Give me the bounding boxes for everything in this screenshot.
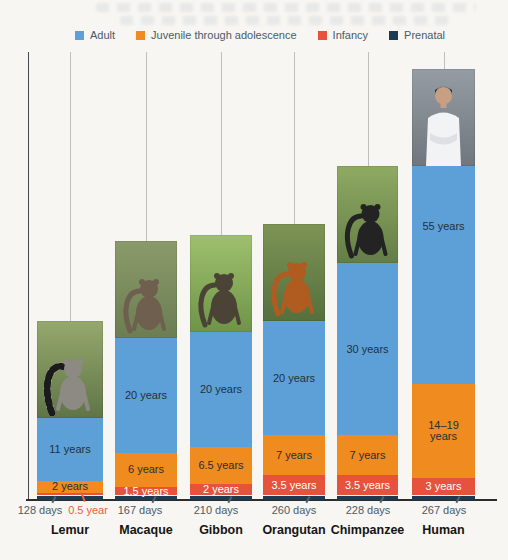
lemur-column-guide-line [70,52,71,321]
gibbon-juvenile-segment: 6.5 years [190,447,252,484]
chimpanzee-adult-label: 30 years [346,344,388,355]
legend-label-infancy: Infancy [333,29,368,41]
page-bleed-through-line-1 [96,3,476,12]
orangutan-column-guide-line [294,52,295,224]
macaque-photo [115,241,177,338]
orangutan-infancy-label: 3.5 years [271,480,316,491]
orangutan-prenatal-days-label: 260 days [272,504,317,516]
human-column-guide-line [444,52,445,69]
gibbon-column-guide-line [221,52,222,235]
legend-swatch-adult-icon [75,31,84,40]
lemur-prenatal-days-label: 128 days [18,504,63,516]
legend-item-juvenile: Juvenile through adolescence [136,29,297,41]
macaque-juvenile-label: 6 years [128,464,164,475]
orangutan-infancy-segment: 3.5 years [263,475,325,495]
human-adult-label: 55 years [422,221,464,232]
chimpanzee-infancy-label: 3.5 years [345,480,390,491]
gibbon-prenatal-segment [190,496,252,501]
legend-item-adult: Adult [75,29,115,41]
page-bleed-through-line-2 [120,16,450,25]
macaque-juvenile-segment: 6 years [115,453,177,487]
macaque-name-label: Macaque [119,523,173,537]
macaque-infancy-segment: 1.5 years [115,487,177,496]
orangutan-adult-segment: 20 years [263,321,325,436]
lemur-adult-segment: 11 years [37,418,103,481]
orangutan-juvenile-segment: 7 years [263,435,325,475]
macaque-adult-label: 20 years [125,390,167,401]
orangutan-prenatal-segment [263,496,325,501]
gibbon-adult-segment: 20 years [190,332,252,447]
legend-label-juvenile: Juvenile through adolescence [151,29,297,41]
lemur-adult-label: 11 years [49,444,90,455]
human-name-label: Human [422,523,464,537]
chart-legend: AdultJuvenile through adolescenceInfancy… [6,29,508,41]
legend-item-infancy: Infancy [318,29,368,41]
book-page: AdultJuvenile through adolescenceInfancy… [0,0,508,560]
human-photo [412,69,475,166]
human-juvenile-label: 14–19 years [421,420,467,442]
gibbon-infancy-segment: 2 years [190,484,252,495]
chimpanzee-infancy-segment: 3.5 years [337,475,398,495]
legend-label-prenatal: Prenatal [404,29,445,41]
lemur-infancy-label: 0.5 year [68,504,108,516]
chimpanzee-juvenile-segment: 7 years [337,435,398,475]
chimpanzee-name-label: Chimpanzee [331,523,405,537]
chimpanzee-column-guide-line [368,52,369,166]
gibbon-adult-label: 20 years [200,384,242,395]
human-prenatal-segment [412,496,475,501]
human-infancy-segment: 3 years [412,478,475,495]
macaque-infancy-label: 1.5 years [123,486,168,497]
legend-label-adult: Adult [90,29,115,41]
macaque-adult-segment: 20 years [115,338,177,453]
gibbon-prenatal-days-label: 210 days [194,504,239,516]
gibbon-photo [190,235,252,332]
chimpanzee-photo [337,166,398,263]
human-prenatal-days-label: 267 days [422,504,467,516]
orangutan-adult-label: 20 years [273,373,315,384]
gibbon-juvenile-label: 6.5 years [198,460,243,471]
gibbon-name-label: Gibbon [199,523,243,537]
macaque-column-guide-line [146,52,147,241]
y-axis-line [28,52,29,500]
orangutan-name-label: Orangutan [262,523,325,537]
legend-item-prenatal: Prenatal [389,29,445,41]
orangutan-juvenile-label: 7 years [276,450,312,461]
human-juvenile-segment: 14–19 years [412,384,475,479]
lemur-juvenile-label: 2 years [52,481,88,492]
chimpanzee-juvenile-label: 7 years [349,450,385,461]
lemur-photo [37,321,103,418]
lemur-juvenile-segment: 2 years [37,481,103,492]
lemur-infancy-segment [37,493,103,496]
lemur-name-label: Lemur [51,523,89,537]
chimpanzee-prenatal-days-label: 228 days [346,504,391,516]
legend-swatch-prenatal-icon [389,31,398,40]
legend-swatch-juvenile-icon [136,31,145,40]
human-infancy-label: 3 years [425,481,461,492]
chimpanzee-adult-segment: 30 years [337,263,398,435]
macaque-prenatal-days-label: 167 days [118,504,163,516]
chimpanzee-prenatal-segment [337,496,398,501]
lemur-prenatal-segment [37,496,103,501]
gibbon-infancy-label: 2 years [203,484,239,495]
legend-swatch-infancy-icon [318,31,327,40]
orangutan-photo [263,224,325,321]
